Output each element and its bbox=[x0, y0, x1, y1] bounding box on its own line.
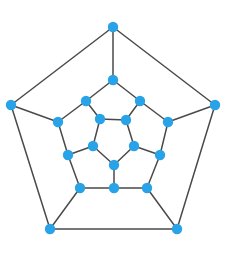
graph-edge bbox=[113, 27, 215, 105]
dodecahedral-graph-figure bbox=[0, 0, 232, 256]
graph-node bbox=[129, 141, 139, 151]
graph-edge bbox=[58, 101, 86, 122]
graph-node bbox=[95, 114, 105, 124]
graph-edge bbox=[50, 188, 80, 229]
graph-node bbox=[45, 224, 55, 234]
graph-node bbox=[121, 115, 131, 125]
graph-edge bbox=[147, 155, 160, 188]
graph-node bbox=[88, 141, 98, 151]
graph-node bbox=[210, 100, 220, 110]
graph-edge bbox=[147, 188, 177, 229]
graph-node bbox=[155, 150, 165, 160]
graph-edge bbox=[168, 105, 215, 122]
graph-node bbox=[63, 150, 73, 160]
graph-node bbox=[109, 183, 119, 193]
graph-edge bbox=[177, 105, 215, 229]
graph-node bbox=[81, 96, 91, 106]
graph-node bbox=[135, 96, 145, 106]
graph-edge bbox=[11, 105, 58, 122]
graph-node bbox=[108, 75, 118, 85]
graph-edge-layer bbox=[11, 27, 215, 229]
graph-node bbox=[75, 183, 85, 193]
graph-node bbox=[108, 22, 118, 32]
graph-node bbox=[53, 117, 63, 127]
figure-container bbox=[0, 0, 232, 256]
graph-node bbox=[163, 117, 173, 127]
graph-node bbox=[142, 183, 152, 193]
graph-node bbox=[6, 100, 16, 110]
graph-node bbox=[109, 160, 119, 170]
graph-edge bbox=[11, 27, 113, 105]
graph-node bbox=[172, 224, 182, 234]
graph-edge bbox=[11, 105, 50, 229]
graph-edge bbox=[68, 155, 80, 188]
figure-caption bbox=[0, 242, 232, 256]
graph-edge bbox=[140, 101, 168, 122]
